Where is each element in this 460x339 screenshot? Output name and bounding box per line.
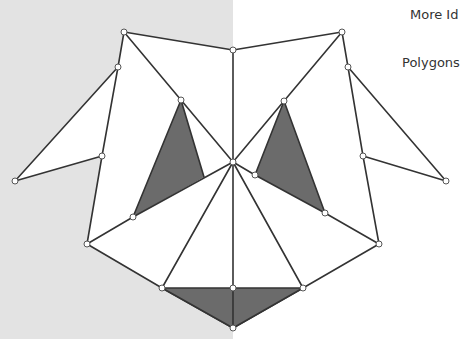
vertex-top-center[interactable] [230, 47, 236, 53]
vertex-right-tip[interactable] [443, 178, 449, 184]
vertex-left-tip[interactable] [12, 178, 18, 184]
vertex-bottom-center[interactable] [230, 285, 236, 291]
vertex-top-right[interactable] [339, 29, 345, 35]
vertex-left-lower[interactable] [84, 241, 90, 247]
vertex-inner-right-small[interactable] [252, 172, 258, 178]
vertex-bottom-tip[interactable] [230, 325, 236, 331]
vertex-inner-left-bottom[interactable] [130, 214, 136, 220]
vertex-left-mid[interactable] [99, 153, 105, 159]
heading-text: More Id [410, 7, 458, 22]
vertex-center[interactable] [230, 159, 236, 165]
vertex-inner-right-bottom[interactable] [322, 210, 328, 216]
vertex-top-left[interactable] [121, 29, 127, 35]
vertex-right-lower[interactable] [376, 241, 382, 247]
vertex-left-upper[interactable] [115, 64, 121, 70]
polygons-text: Polygons [402, 55, 460, 70]
vertex-right-upper[interactable] [345, 64, 351, 70]
vertex-right-mid[interactable] [360, 153, 366, 159]
vertex-bottom-left[interactable] [159, 285, 165, 291]
vertex-inner-right-top[interactable] [281, 98, 287, 104]
vertex-bottom-right[interactable] [300, 285, 306, 291]
vertex-inner-left-top[interactable] [178, 97, 184, 103]
